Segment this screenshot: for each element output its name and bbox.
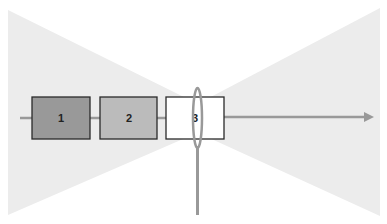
box-1-label: 1: [58, 112, 64, 124]
diagram-svg: 1 2 3: [0, 0, 387, 224]
right-cone: [205, 8, 380, 216]
box-2-label: 2: [126, 112, 132, 124]
box-3: 3: [166, 97, 224, 139]
box-2: 2: [100, 97, 157, 139]
box-1: 1: [32, 97, 90, 139]
diagram-canvas: 1 2 3: [0, 0, 387, 224]
